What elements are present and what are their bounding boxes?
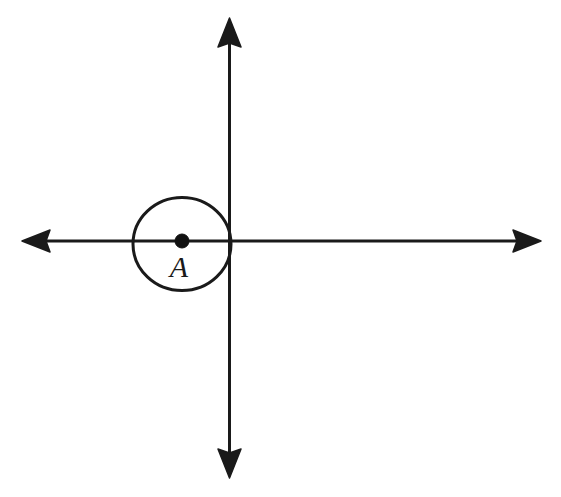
y-axis-down-arrowhead-icon [218, 449, 241, 478]
x-axis-left-arrowhead-icon [22, 230, 50, 252]
circle-A-center-dot [175, 234, 189, 248]
point-label-A: A [168, 250, 189, 283]
x-axis-group [22, 230, 541, 252]
geometry-figure-canvas: A [0, 0, 561, 497]
x-axis-right-arrowhead-icon [513, 230, 541, 252]
figure-svg: A [0, 0, 561, 497]
y-axis-up-arrowhead-icon [218, 18, 241, 47]
